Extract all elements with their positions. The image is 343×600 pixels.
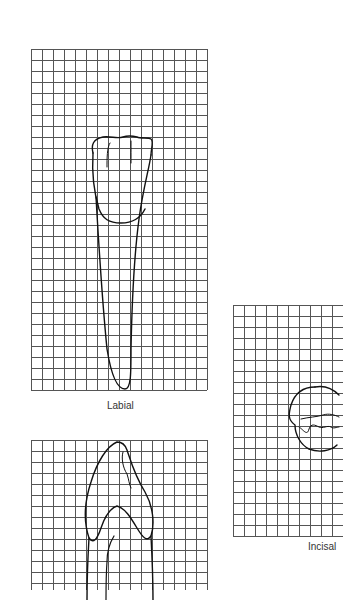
labial-tooth-outline [31, 49, 207, 390]
incisal-label: Incisal [308, 541, 336, 552]
incisal-grid-panel [233, 305, 343, 533]
proximal-tooth-outline [31, 440, 207, 600]
labial-grid-panel [31, 49, 207, 390]
incisal-tooth-outline [233, 305, 343, 533]
proximal-grid-panel [31, 440, 207, 600]
labial-label: Labial [107, 400, 134, 411]
